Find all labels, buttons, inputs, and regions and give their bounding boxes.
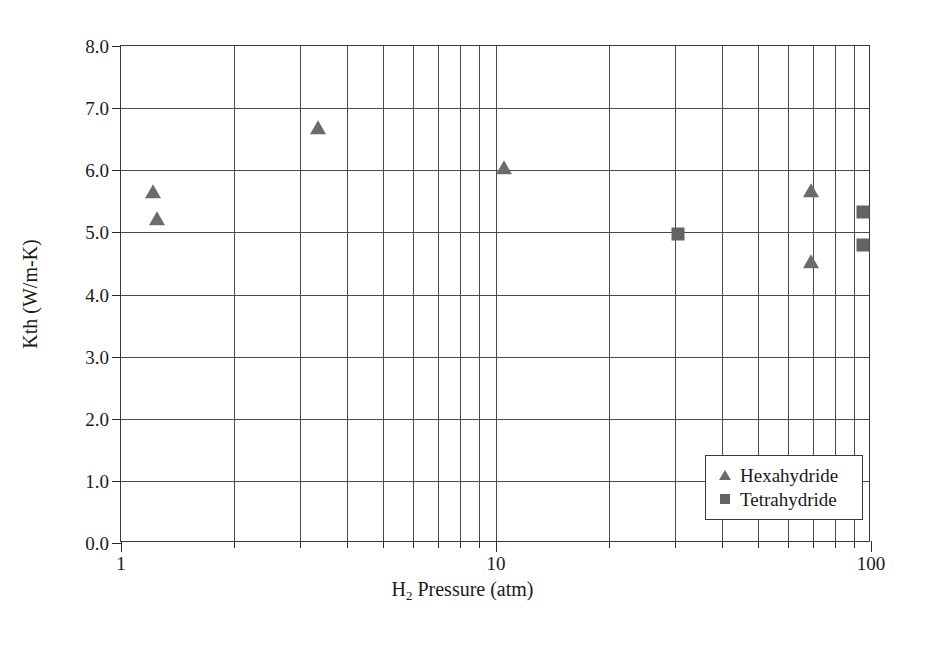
y-axis-tick xyxy=(112,357,121,358)
x-axis-minor-tick xyxy=(438,541,439,548)
x-axis-major-tick xyxy=(496,541,497,552)
grid-line-vertical xyxy=(460,46,461,541)
x-axis-tick-label: 10 xyxy=(487,554,506,573)
x-axis-tick-label: 100 xyxy=(857,554,886,573)
x-axis-title: H2 Pressure (atm) xyxy=(0,578,925,601)
x-axis-minor-tick xyxy=(813,541,814,548)
y-axis-tick-label: 2.0 xyxy=(39,409,109,428)
legend: Hexahydride Tetrahydride xyxy=(705,455,863,520)
legend-label-hexahydride: Hexahydride xyxy=(740,466,838,485)
y-axis-tick-label: 6.0 xyxy=(39,161,109,180)
x-axis-minor-tick xyxy=(460,541,461,548)
square-marker-icon xyxy=(716,494,734,504)
x-axis-major-tick xyxy=(871,541,872,552)
x-axis-minor-tick xyxy=(234,541,235,548)
y-axis-tick xyxy=(112,543,121,544)
x-axis-title-suffix: Pressure (atm) xyxy=(412,578,533,600)
grid-line-vertical xyxy=(300,46,301,541)
x-axis-tick-label: 1 xyxy=(116,554,126,573)
data-point-hexahydride xyxy=(149,212,165,226)
x-axis-minor-tick xyxy=(722,541,723,548)
legend-item-hexahydride: Hexahydride xyxy=(716,463,852,487)
grid-line-vertical xyxy=(675,46,676,541)
y-axis-tick-label: 3.0 xyxy=(39,347,109,366)
data-point-hexahydride xyxy=(803,183,819,197)
chart-container: Kth (W/m-K) 0.01.02.03.04.05.06.07.08.01… xyxy=(0,0,925,649)
grid-line-vertical xyxy=(347,46,348,541)
y-axis-tick xyxy=(112,419,121,420)
x-axis-major-tick xyxy=(121,541,122,552)
data-point-tetrahydride xyxy=(671,228,684,241)
legend-label-tetrahydride: Tetrahydride xyxy=(740,490,837,509)
x-axis-minor-tick xyxy=(788,541,789,548)
x-axis-minor-tick xyxy=(758,541,759,548)
x-axis-minor-tick xyxy=(854,541,855,548)
grid-line-vertical xyxy=(413,46,414,541)
y-axis-tick xyxy=(112,232,121,233)
y-axis-tick-label: 8.0 xyxy=(39,37,109,56)
y-axis-tick xyxy=(112,108,121,109)
x-axis-minor-tick xyxy=(383,541,384,548)
y-axis-tick xyxy=(112,46,121,47)
grid-line-vertical xyxy=(438,46,439,541)
y-axis-tick xyxy=(112,295,121,296)
x-axis-minor-tick xyxy=(609,541,610,548)
triangle-marker-icon xyxy=(716,470,734,480)
grid-line-vertical xyxy=(479,46,480,541)
x-axis-minor-tick xyxy=(413,541,414,548)
x-axis-minor-tick xyxy=(347,541,348,548)
x-axis-title-prefix: H xyxy=(391,578,405,600)
x-axis-minor-tick xyxy=(835,541,836,548)
grid-line-vertical xyxy=(234,46,235,541)
data-point-hexahydride xyxy=(496,160,512,174)
x-axis-title-subscript: 2 xyxy=(406,588,413,603)
legend-item-tetrahydride: Tetrahydride xyxy=(716,487,852,511)
y-axis-tick-label: 5.0 xyxy=(39,223,109,242)
data-point-hexahydride xyxy=(803,254,819,268)
grid-line-vertical-major xyxy=(496,46,497,541)
x-axis-minor-tick xyxy=(479,541,480,548)
y-axis-tick-label: 0.0 xyxy=(39,534,109,553)
y-axis-tick xyxy=(112,481,121,482)
y-axis-tick xyxy=(112,170,121,171)
data-point-tetrahydride xyxy=(856,205,869,218)
data-point-hexahydride xyxy=(145,184,161,198)
x-axis-minor-tick xyxy=(675,541,676,548)
grid-line-vertical xyxy=(609,46,610,541)
y-axis-tick-label: 1.0 xyxy=(39,471,109,490)
y-axis-tick-label: 4.0 xyxy=(39,285,109,304)
grid-line-vertical xyxy=(383,46,384,541)
data-point-tetrahydride xyxy=(856,239,869,252)
x-axis-minor-tick xyxy=(300,541,301,548)
data-point-hexahydride xyxy=(310,120,326,134)
y-axis-tick-label: 7.0 xyxy=(39,99,109,118)
